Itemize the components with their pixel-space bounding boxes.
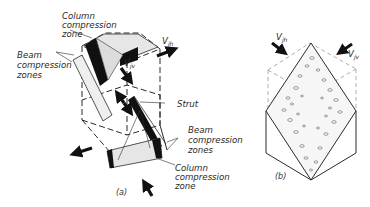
arrow-bottom-up [144,182,152,196]
column-compression-zone-top [84,34,158,86]
panel-b-diagram: Vjh Vjv (b) [266,32,360,181]
label-beam-compression-right: Beam compression zones [187,125,245,155]
label-strut: Strut [177,99,199,109]
label-column-compression-bottom: Column compression zone [174,163,232,191]
beam-column-joint-figure: Column compression zone Beam compression… [0,0,370,207]
label-beam-compression-left: Beam compression zones [16,50,74,80]
label-vjh-a: Vjh [162,36,174,48]
arrow-left-outward [73,148,92,154]
label-vjh-b: Vjh [276,32,288,44]
panel-a-caption: (a) [116,188,127,197]
panel-b-caption: (b) [275,172,286,181]
panel-a-diagram: Column compression zone Beam compression… [16,11,245,197]
cracked-diamond-panel [266,43,356,180]
arrow-vjh-b [272,43,285,53]
arrow-vjv-down [121,68,131,82]
arrow-strut-up [117,93,124,103]
label-vjv-b: Vjv [348,49,360,61]
